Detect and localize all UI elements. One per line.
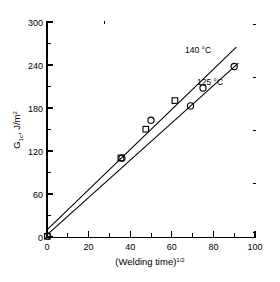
- fit-line-125c: [47, 63, 238, 235]
- svg-text:(Welding time)1/2: (Welding time)1/2: [115, 256, 185, 267]
- x-tick-label-20: 20: [84, 242, 94, 252]
- y-axis-title-exponent: 2: [12, 111, 18, 115]
- x-axis-minor-ticks: [68, 233, 234, 237]
- scatter-plot: 0 60 120 180 240 300 0 20 40 60 80 100 (…: [0, 0, 280, 282]
- x-tick-label-40: 40: [125, 242, 135, 252]
- series-label-125c: 125 °C: [197, 77, 223, 87]
- data-point-square: [172, 98, 178, 104]
- y-axis-title-main: G: [11, 141, 22, 148]
- x-tick-label-0: 0: [44, 242, 49, 252]
- y-tick-label-180: 180: [28, 104, 43, 114]
- chart-figure: 0 60 120 180 240 300 0 20 40 60 80 100 (…: [0, 0, 280, 282]
- x-axis-title-text: (Welding time): [115, 256, 176, 267]
- y-tick-label-240: 240: [28, 61, 43, 71]
- plot-frame-marks: [104, 21, 256, 232]
- y-axis-title: G1c, J/m2: [11, 111, 24, 149]
- y-tick-label-120: 120: [28, 147, 43, 157]
- y-tick-label-300: 300: [28, 18, 43, 28]
- x-tick-label-100: 100: [247, 242, 262, 252]
- svg-text:G1c, J/m2: G1c, J/m2: [11, 111, 24, 149]
- y-tick-label-60: 60: [33, 190, 43, 200]
- y-axis-title-rest: , J/m: [11, 114, 22, 135]
- x-axis-title-exponent: 1/2: [176, 257, 185, 263]
- x-tick-label-60: 60: [167, 242, 177, 252]
- data-point-square: [143, 126, 149, 132]
- series-label-140c: 140 °C: [185, 45, 211, 55]
- fit-line-140c: [47, 47, 236, 230]
- x-tick-label-80: 80: [208, 242, 218, 252]
- data-point-circle: [148, 117, 154, 123]
- y-tick-label-0: 0: [38, 233, 43, 243]
- x-axis-title: (Welding time)1/2: [115, 256, 185, 267]
